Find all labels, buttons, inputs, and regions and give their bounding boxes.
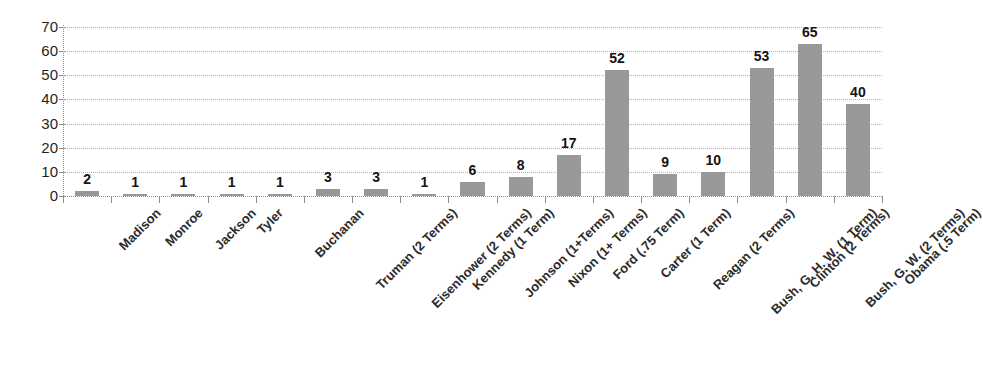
x-axis-category-label: Truman (2 Terms) [374, 206, 460, 292]
bar-slot: 1 [208, 27, 256, 196]
x-axis-category-label: Buchanan [312, 206, 366, 260]
bar-slot: 53 [737, 27, 785, 196]
x-tick-mark [882, 196, 883, 203]
bar[interactable] [316, 189, 340, 196]
y-tick-label: 40 [24, 91, 58, 106]
bar-slot: 3 [352, 27, 400, 196]
bar[interactable] [460, 182, 484, 196]
bar[interactable] [364, 189, 388, 196]
bar-slot: 40 [834, 27, 882, 196]
x-axis-labels: MadisonMonroeJacksonTylerBuchananTruman … [63, 206, 909, 365]
bar-slot: 9 [641, 27, 689, 196]
bar-value-label: 9 [641, 155, 689, 169]
x-tick-mark [448, 196, 449, 203]
x-tick-mark [256, 196, 257, 203]
bar[interactable] [605, 70, 629, 196]
bar[interactable] [653, 174, 677, 196]
bar-slot: 10 [689, 27, 737, 196]
bar-value-label: 53 [737, 49, 785, 63]
y-axis: 706050403020100 [0, 27, 58, 196]
y-tick-label: 70 [24, 19, 58, 34]
x-tick-mark [497, 196, 498, 203]
bar-slot: 52 [593, 27, 641, 196]
bar-slot: 1 [256, 27, 304, 196]
x-axis-category-label: Tyler [254, 206, 285, 237]
x-tick-mark [159, 196, 160, 203]
y-tick-label: 50 [24, 67, 58, 82]
bar-slot: 1 [111, 27, 159, 196]
bar[interactable] [509, 177, 533, 196]
bar-slot: 17 [545, 27, 593, 196]
x-tick-mark [111, 196, 112, 203]
y-tick-label: 30 [24, 116, 58, 131]
bar[interactable] [798, 44, 822, 196]
bar-value-label: 3 [352, 170, 400, 184]
x-tick-mark [545, 196, 546, 203]
bar-slot: 65 [786, 27, 834, 196]
bar-value-label: 1 [208, 175, 256, 189]
y-tick-label: 0 [24, 188, 58, 203]
bar-value-label: 2 [63, 172, 111, 186]
x-tick-mark [304, 196, 305, 203]
x-tick-mark [834, 196, 835, 203]
x-axis [63, 196, 882, 206]
x-tick-mark [208, 196, 209, 203]
bar-slot: 8 [497, 27, 545, 196]
bar-value-label: 10 [689, 153, 737, 167]
bar-value-label: 40 [834, 85, 882, 99]
x-tick-mark [400, 196, 401, 203]
x-tick-mark [786, 196, 787, 203]
bar-value-label: 17 [545, 136, 593, 150]
bar-value-label: 1 [159, 175, 207, 189]
x-axis-category-label: Monroe [163, 206, 206, 249]
x-axis-category-label: Madison [117, 206, 164, 253]
x-tick-mark [352, 196, 353, 203]
bar-value-label: 1 [256, 175, 304, 189]
bar-slot: 6 [448, 27, 496, 196]
x-tick-mark [593, 196, 594, 203]
bar-value-label: 65 [786, 25, 834, 39]
bar[interactable] [846, 104, 870, 196]
x-axis-category-label: Jackson [213, 206, 260, 253]
x-axis-category-label: Clinton (2 Terms) [807, 206, 892, 291]
x-tick-mark [737, 196, 738, 203]
y-tick-label: 10 [24, 164, 58, 179]
bar[interactable] [557, 155, 581, 196]
bar[interactable] [750, 68, 774, 196]
bar-value-label: 1 [400, 175, 448, 189]
x-tick-mark [63, 196, 64, 203]
bar-slot: 2 [63, 27, 111, 196]
x-tick-mark [689, 196, 690, 203]
bar-value-label: 1 [111, 175, 159, 189]
bar-slot: 3 [304, 27, 352, 196]
y-tick-label: 60 [24, 43, 58, 58]
bars-layer: 21111331681752910536540 [63, 27, 882, 196]
bar-slot: 1 [159, 27, 207, 196]
bar-value-label: 8 [497, 158, 545, 172]
bar-value-label: 6 [448, 163, 496, 177]
x-tick-mark [641, 196, 642, 203]
bar-value-label: 52 [593, 51, 641, 65]
bar[interactable] [701, 172, 725, 196]
bar-slot: 1 [400, 27, 448, 196]
y-tick-label: 20 [24, 140, 58, 155]
bar-value-label: 3 [304, 170, 352, 184]
